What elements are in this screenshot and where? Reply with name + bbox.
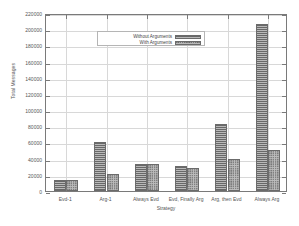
y-tick-mark (282, 112, 286, 113)
y-tick-mark (282, 80, 286, 81)
y-tick-mark (46, 31, 50, 32)
bar (66, 180, 78, 191)
y-axis-tick-label: 60000 (2, 140, 42, 146)
y-axis-tick-label: 140000 (2, 76, 42, 82)
gridline-horizontal (46, 112, 286, 113)
y-tick-mark (282, 96, 286, 97)
legend-label: Without Arguments (133, 34, 172, 39)
y-axis-tick-label: 160000 (2, 60, 42, 66)
legend-entry-1: With Arguments (98, 40, 201, 46)
x-tick-mark (66, 15, 67, 19)
x-tick-mark (107, 187, 108, 191)
x-tick-mark (228, 15, 229, 19)
y-tick-mark (282, 177, 286, 178)
gridline-horizontal (46, 161, 286, 162)
bar (107, 174, 119, 191)
x-tick-mark (187, 187, 188, 191)
y-axis-tick-label: 80000 (2, 124, 42, 130)
x-tick-mark (187, 15, 188, 19)
x-tick-mark (66, 187, 67, 191)
y-tick-mark (46, 177, 50, 178)
bar (215, 124, 227, 191)
y-axis-tick-label: 40000 (2, 157, 42, 163)
bar (175, 166, 187, 191)
y-tick-mark (282, 128, 286, 129)
gridline-horizontal (46, 47, 286, 48)
y-tick-mark (282, 15, 286, 16)
y-tick-mark (46, 80, 50, 81)
gridline-horizontal (46, 64, 286, 65)
x-tick-mark (228, 187, 229, 191)
legend-label: With Arguments (140, 40, 172, 45)
x-tick-mark (147, 187, 148, 191)
y-axis-tick-label: 180000 (2, 43, 42, 49)
legend-swatch-with-arguments (175, 41, 201, 45)
gridline-horizontal (46, 96, 286, 97)
chart-figure: Total Messages 0200004000060000800001000… (0, 0, 299, 226)
bar (54, 180, 66, 191)
bar (135, 164, 147, 191)
bar (256, 24, 268, 191)
x-tick-mark (107, 15, 108, 19)
bar (268, 150, 280, 191)
y-tick-mark (46, 47, 50, 48)
gridline-horizontal (46, 177, 286, 178)
y-tick-mark (282, 64, 286, 65)
gridline-horizontal (46, 144, 286, 145)
y-axis-tick-label: 100000 (2, 108, 42, 114)
y-tick-mark (46, 144, 50, 145)
y-tick-mark (282, 47, 286, 48)
plot-area: Without Arguments With Arguments (45, 14, 287, 192)
y-tick-mark (282, 31, 286, 32)
x-tick-mark (268, 187, 269, 191)
bar (94, 142, 106, 191)
y-tick-mark (46, 128, 50, 129)
y-tick-mark (46, 15, 50, 16)
x-axis-tick-label: Always Arg (237, 196, 297, 202)
y-tick-mark (282, 144, 286, 145)
y-tick-mark (46, 161, 50, 162)
gridline-horizontal (46, 15, 286, 16)
gridline-horizontal (46, 80, 286, 81)
x-axis-title: Strategy (45, 205, 287, 211)
y-tick-mark (46, 112, 50, 113)
gridline-horizontal (46, 128, 286, 129)
x-tick-mark (268, 15, 269, 19)
bar (228, 159, 240, 191)
y-tick-mark (282, 161, 286, 162)
y-tick-mark (46, 64, 50, 65)
x-tick-mark (147, 15, 148, 19)
y-axis-tick-label: 220000 (2, 11, 42, 17)
bar (187, 168, 199, 191)
chart-legend: Without Arguments With Arguments (97, 31, 205, 46)
gridline-vertical (66, 15, 67, 191)
y-axis-tick-label: 120000 (2, 92, 42, 98)
y-tick-mark (46, 193, 50, 194)
bar (147, 164, 159, 191)
y-tick-mark (46, 96, 50, 97)
y-tick-mark (282, 193, 286, 194)
y-axis-tick-label: 200000 (2, 27, 42, 33)
y-axis-tick-label: 0 (2, 189, 42, 195)
legend-swatch-without-arguments (175, 35, 201, 39)
y-axis-tick-label: 20000 (2, 173, 42, 179)
